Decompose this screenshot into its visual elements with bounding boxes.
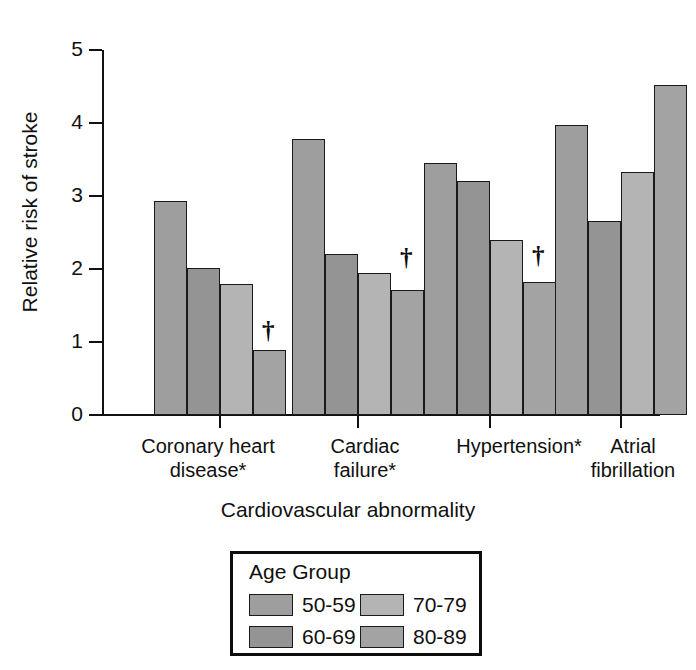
bar [654, 85, 687, 415]
legend-label-60-69: 60-69 [302, 626, 356, 648]
bar [621, 172, 654, 415]
y-tick-1 [89, 341, 102, 343]
x-category-label-line: Atrial [572, 434, 694, 458]
dagger-annotation: † [532, 243, 545, 268]
legend: Age Group 50-5970-7960-6980-89 [230, 551, 482, 656]
y-tick-label-3: 3 [61, 184, 83, 205]
x-tick-2 [489, 416, 491, 428]
legend-entry-50-59: 50-59 [249, 594, 360, 616]
y-tick-label-2: 2 [61, 257, 83, 278]
bar [457, 181, 490, 415]
x-tick-1 [357, 416, 359, 428]
legend-row: 60-6980-89 [249, 621, 471, 653]
bar [523, 282, 556, 415]
legend-entries: 50-5970-7960-6980-89 [249, 589, 471, 653]
legend-swatch-70-79 [360, 594, 404, 616]
legend-swatch-60-69 [249, 626, 293, 648]
legend-swatch-50-59 [249, 594, 293, 616]
bar [325, 254, 358, 415]
dagger-annotation: † [262, 318, 275, 343]
y-tick-2 [89, 268, 102, 270]
bar [391, 290, 424, 415]
bar [358, 273, 391, 415]
y-tick-label-wrap: 5 [55, 38, 83, 59]
bar [187, 268, 220, 415]
y-tick-0 [89, 414, 102, 416]
legend-entry-70-79: 70-79 [360, 594, 471, 616]
y-tick-3 [89, 195, 102, 197]
bar [424, 163, 457, 415]
legend-swatch-80-89 [360, 626, 404, 648]
x-category-label-line: Coronary heart [118, 434, 298, 458]
chart-figure: Relative risk of stroke 012345 Coronary … [0, 0, 696, 670]
x-category-label: Cardiacfailure* [300, 434, 430, 482]
bar [292, 139, 325, 415]
x-axis-title: Cardiovascular abnormality [0, 498, 696, 522]
legend-label-50-59: 50-59 [302, 594, 356, 616]
x-tick-0 [219, 416, 221, 428]
y-axis-title: Relative risk of stroke [18, 32, 42, 392]
legend-label-80-89: 80-89 [413, 626, 467, 648]
y-tick-label-wrap: 1 [55, 330, 83, 351]
x-category-label: Atrialfibrillation [572, 434, 694, 482]
x-category-label-line: Cardiac [300, 434, 430, 458]
legend-title: Age Group [249, 560, 351, 584]
bar [588, 221, 621, 415]
y-tick-label-1: 1 [61, 330, 83, 351]
x-category-label: Coronary heartdisease* [118, 434, 298, 482]
plot-area [103, 50, 660, 415]
x-category-label-line: disease* [118, 458, 298, 482]
y-tick-label-5: 5 [61, 38, 83, 59]
legend-label-70-79: 70-79 [413, 594, 467, 616]
y-tick-label-wrap: 4 [55, 111, 83, 132]
legend-row: 50-5970-79 [249, 589, 471, 621]
dagger-annotation: † [400, 245, 413, 270]
x-tick-3 [620, 416, 622, 428]
y-tick-label-wrap: 3 [55, 184, 83, 205]
bar [154, 201, 187, 415]
bar [253, 350, 286, 415]
x-category-label-line: failure* [300, 458, 430, 482]
bar [220, 284, 253, 415]
y-tick-5 [89, 49, 102, 51]
y-tick-label-4: 4 [61, 111, 83, 132]
legend-entry-60-69: 60-69 [249, 626, 360, 648]
y-tick-4 [89, 122, 102, 124]
y-tick-label-0: 0 [61, 403, 83, 424]
bar [490, 240, 523, 415]
legend-entry-80-89: 80-89 [360, 626, 471, 648]
bar [555, 125, 588, 415]
y-tick-label-wrap: 2 [55, 257, 83, 278]
x-category-label-line: fibrillation [572, 458, 694, 482]
y-tick-label-wrap: 0 [55, 403, 83, 424]
